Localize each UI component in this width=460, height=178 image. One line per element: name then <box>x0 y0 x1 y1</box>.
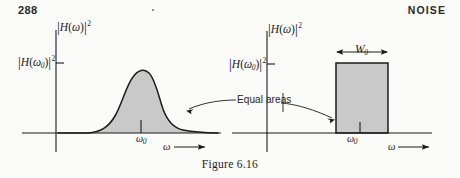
w0-arrow-head-right <box>381 49 388 55</box>
equal-areas-arrow-head-left <box>186 109 194 114</box>
width-marker-label: W0 <box>355 44 368 57</box>
left-omega-arrow-head <box>198 144 205 150</box>
figure-caption: Figure 6.16 <box>0 158 460 170</box>
right-y-axis-label: |H(ω)|2 <box>268 22 302 37</box>
left-y-axis-label: |H(ω)|2 <box>57 20 91 35</box>
equal-areas-leader-left <box>189 100 236 109</box>
left-x-tick-label: ω0 <box>136 134 146 146</box>
figure-6-16: |H(ω)|2 |H(ω0)|2 ω0 ω |H(ω)|2 |H(ω0)|2 ω… <box>0 0 460 178</box>
right-x-axis-label: ω <box>388 142 395 153</box>
equal-areas-annotation: Equal areas <box>237 95 291 105</box>
right-omega-arrow-head <box>422 144 429 150</box>
right-y-value-label: |H(ω0)|2 <box>229 57 266 72</box>
equal-areas-leader-right <box>281 103 332 118</box>
left-x-axis-label: ω <box>163 142 170 153</box>
w0-arrow-head-left <box>336 49 343 55</box>
right-x-tick-label: ω0 <box>347 134 357 146</box>
right-rectangle-shaded-area <box>336 63 388 133</box>
equal-areas-arrow-head-right <box>327 119 335 124</box>
left-y-value-label: |H(ω0)|2 <box>18 55 55 70</box>
left-curve-shaded-area <box>58 70 218 133</box>
